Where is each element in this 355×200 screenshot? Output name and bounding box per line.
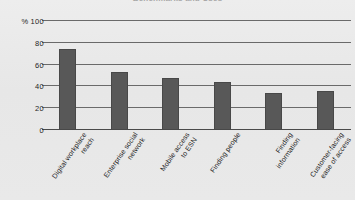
y-axis-unit: % <box>22 17 29 26</box>
bar[interactable] <box>162 78 179 130</box>
bar-slot <box>111 21 128 130</box>
bar-slot <box>162 21 179 130</box>
bar-chart: Benchmarks and Uses 020406080%100 Digita… <box>0 0 355 200</box>
x-axis-label: Finding people <box>209 131 243 175</box>
bar-series <box>42 21 351 130</box>
y-tick-value: 20 <box>35 104 44 113</box>
x-axis-label: Customer-facingease of access <box>309 131 353 184</box>
chart-title: Benchmarks and Uses <box>0 0 355 1</box>
y-tick-label-20: 20 <box>4 104 44 113</box>
bar-slot <box>59 21 76 130</box>
y-tick-label-0: 0 <box>4 126 44 135</box>
bar[interactable] <box>214 82 231 130</box>
y-tick-value: 40 <box>35 82 44 91</box>
x-axis-label: Digital workplacereach <box>50 131 95 185</box>
bar[interactable] <box>59 49 76 130</box>
y-tick-label-100: %100 <box>4 17 44 26</box>
y-tick-label-80: 80 <box>4 38 44 47</box>
y-tick-label-60: 60 <box>4 60 44 69</box>
bar[interactable] <box>111 72 128 130</box>
bar[interactable] <box>265 93 282 130</box>
x-axis-category-labels: Digital workplacereachEnterprise socialn… <box>42 131 351 200</box>
bar-slot <box>265 21 282 130</box>
x-axis-label-line1: Finding people <box>209 131 242 174</box>
y-tick-value: 100 <box>31 17 44 26</box>
plot-area <box>42 21 351 130</box>
y-tick-value: 80 <box>35 38 44 47</box>
bar-slot <box>214 21 231 130</box>
y-tick-label-40: 40 <box>4 82 44 91</box>
x-axis-label: Findinginformation <box>267 131 301 170</box>
bar[interactable] <box>317 91 334 130</box>
y-tick-value: 60 <box>35 60 44 69</box>
x-axis-label: Enterprise socialnetwork <box>103 131 148 185</box>
bar-slot <box>317 21 334 130</box>
x-axis-label: Mobile accessto ESN <box>159 131 199 178</box>
